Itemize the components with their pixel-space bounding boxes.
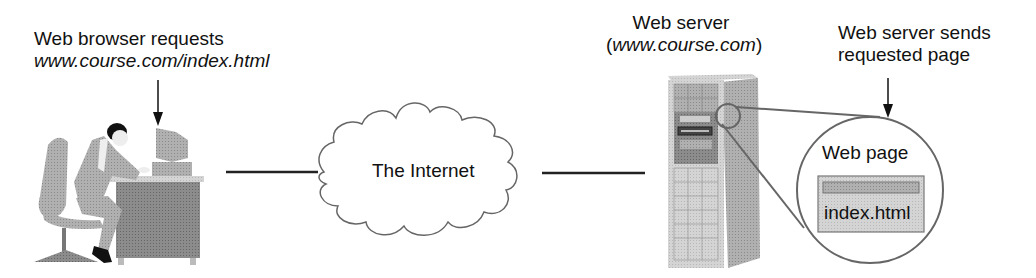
- response-arrow-icon: [883, 78, 893, 118]
- web-server-label: Web server (www.course.com): [626, 12, 736, 56]
- web-page-filename: index.html: [824, 202, 911, 224]
- web-page-title: Web page: [822, 142, 908, 164]
- paren-close: ): [756, 34, 762, 55]
- internet-label: The Internet: [372, 160, 474, 182]
- web-server-domain-line: (www.course.com): [606, 34, 756, 56]
- client-request-label: Web browser requests www.course.com/inde…: [34, 28, 269, 72]
- web-server-domain: www.course.com: [612, 34, 756, 55]
- web-server-tower-icon: [668, 74, 760, 268]
- client-request-label-line1: Web browser requests: [34, 28, 269, 50]
- server-response-label-line1: Web server sends: [838, 22, 991, 44]
- client-request-url: www.course.com/index.html: [34, 50, 269, 72]
- request-arrow-icon: [153, 80, 163, 126]
- web-server-label-line1: Web server: [626, 12, 736, 34]
- server-response-label-line2: requested page: [838, 44, 991, 66]
- person-at-desk-icon: [34, 123, 204, 265]
- server-response-label: Web server sends requested page: [838, 22, 991, 66]
